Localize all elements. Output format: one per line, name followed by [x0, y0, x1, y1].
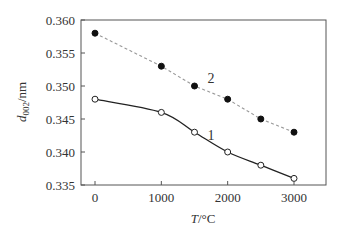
- y-tick-label: 0.340: [46, 145, 75, 160]
- x-tick-label: 1000: [148, 190, 174, 205]
- plot-area: 12: [81, 20, 326, 185]
- data-point: [258, 162, 264, 168]
- chart: 12 0.3350.3400.3450.3500.3550.360 010002…: [0, 0, 346, 231]
- y-axis: 0.3350.3400.3450.3500.3550.360: [46, 13, 85, 193]
- x-tick-label: 0: [92, 190, 99, 205]
- data-point: [291, 175, 297, 181]
- data-point: [158, 63, 164, 69]
- data-point: [225, 96, 231, 102]
- series-line: [95, 99, 294, 178]
- y-tick-label: 0.350: [46, 79, 75, 94]
- data-point: [225, 149, 231, 155]
- y-tick-label: 0.345: [46, 112, 75, 127]
- data-point: [192, 129, 198, 135]
- series-1: 1: [92, 96, 297, 181]
- y-axis-label: d002/nm: [14, 82, 31, 122]
- data-point: [192, 83, 198, 89]
- y-tick-label: 0.335: [46, 178, 75, 193]
- series-label: 2: [208, 71, 215, 86]
- data-point: [258, 116, 264, 122]
- y-tick-label: 0.360: [46, 13, 75, 28]
- data-point: [92, 30, 98, 36]
- x-tick-label: 3000: [281, 190, 307, 205]
- series-label: 1: [208, 128, 215, 143]
- x-tick-label: 2000: [215, 190, 241, 205]
- data-point: [92, 96, 98, 102]
- data-point: [158, 109, 164, 115]
- y-tick-label: 0.355: [46, 46, 75, 61]
- series-2: 2: [92, 30, 297, 135]
- data-point: [291, 129, 297, 135]
- x-axis-label: T/°C: [191, 211, 216, 226]
